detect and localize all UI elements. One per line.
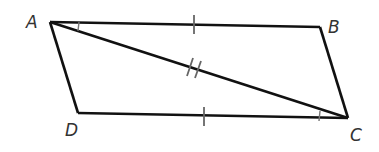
side-ab — [50, 22, 320, 27]
vertex-label-b: B — [328, 17, 340, 37]
parallelogram-diagram: A B C D — [0, 0, 379, 152]
angle-mark-c — [319, 111, 320, 121]
side-da — [50, 22, 78, 113]
vertex-label-d: D — [65, 120, 78, 140]
vertex-label-a: A — [25, 12, 38, 32]
side-cd — [78, 113, 348, 118]
side-bc — [320, 27, 348, 118]
vertex-label-c: C — [350, 125, 362, 145]
angle-mark-a — [78, 22, 79, 31]
diagonal-ac — [50, 22, 348, 118]
